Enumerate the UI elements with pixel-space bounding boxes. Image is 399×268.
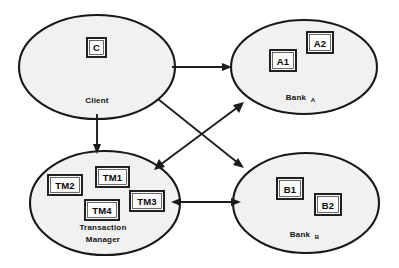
edge-transaction-manager-to-bank-a-line — [160, 107, 238, 165]
box-a2-label: A2 — [314, 38, 326, 49]
transaction-manager-box-tm4[interactable]: TM4 — [85, 200, 119, 220]
transaction-manager-box-tm1[interactable]: TM1 — [96, 167, 129, 187]
edge-client-to-bank-a[interactable] — [172, 63, 232, 71]
bank-b-box-b2[interactable]: B2 — [315, 194, 341, 215]
transaction-manager-label-line1: Transaction — [79, 223, 126, 232]
client-box-c[interactable]: C — [87, 38, 106, 57]
bank-a-subscript: A — [311, 97, 316, 103]
box-b2-label: B2 — [322, 200, 334, 211]
edge-client-to-bank-b-line — [158, 99, 238, 163]
node-bank-a[interactable]: A1 A2 Bank A — [231, 20, 377, 114]
node-client[interactable]: C Client — [19, 15, 175, 119]
diagram-svg: C Client A1 A2 Bank A — [0, 0, 399, 268]
bank-b-subscript: B — [315, 234, 320, 240]
box-tm1-label: TM1 — [103, 172, 123, 183]
box-tm4-label: TM4 — [92, 205, 112, 216]
box-tm2-label: TM2 — [55, 180, 74, 191]
client-label: Client — [85, 96, 109, 105]
node-bank-b[interactable]: B1 B2 Bank B — [233, 153, 379, 253]
bank-b-label: Bank — [290, 230, 311, 239]
transaction-manager-box-tm2[interactable]: TM2 — [48, 175, 82, 195]
box-c-label: C — [93, 42, 100, 53]
bank-a-label: Bank — [286, 93, 307, 102]
edge-transaction-manager-to-bank-a[interactable] — [154, 102, 244, 170]
box-a1-label: A1 — [277, 56, 290, 67]
bank-a-box-a1[interactable]: A1 — [270, 50, 296, 71]
transaction-manager-box-tm3[interactable]: TM3 — [130, 191, 164, 211]
diagram-canvas: C Client A1 A2 Bank A — [0, 0, 399, 268]
edge-transaction-manager-to-bank-a-arrowhead-end — [233, 102, 244, 113]
box-b1-label: B1 — [284, 184, 297, 195]
edge-transaction-manager-to-bank-b[interactable] — [171, 198, 241, 206]
bank-a-box-a2[interactable]: A2 — [307, 32, 333, 53]
box-tm3-label: TM3 — [137, 196, 156, 207]
bank-b-box-b1[interactable]: B1 — [277, 178, 303, 199]
transaction-manager-label-line2: Manager — [86, 235, 120, 244]
